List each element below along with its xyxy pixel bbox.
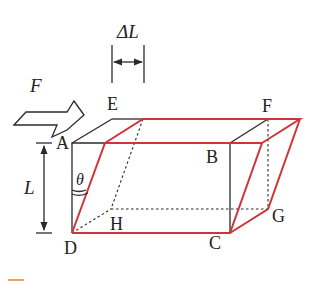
vertex-f-label: F — [262, 96, 272, 116]
delta-l-dimension — [112, 45, 144, 83]
force-arrow-icon — [14, 101, 84, 137]
vertex-c-label: C — [209, 233, 221, 253]
angle-theta-arc — [72, 190, 88, 195]
length-dimension — [36, 143, 52, 233]
vertex-b-label: B — [206, 147, 218, 167]
deformed-block — [72, 119, 300, 233]
vertex-g-label: G — [272, 206, 285, 226]
delta-l-label: ΔL — [116, 21, 139, 42]
deformed-front-face — [72, 143, 262, 233]
vertex-e-label: E — [107, 94, 118, 114]
theta-label: θ — [76, 171, 84, 188]
vertex-a-label: A — [56, 133, 69, 153]
vertex-h-label: H — [110, 214, 123, 234]
edge-deformed-back-left-hidden — [111, 119, 143, 209]
edge-ae — [72, 119, 112, 143]
original-block — [72, 119, 268, 233]
shear-diagram: F ΔL L θ A E B F D H C G — [0, 0, 320, 281]
length-label: L — [23, 177, 35, 198]
deformed-top-face — [105, 119, 300, 143]
force-label: F — [29, 75, 42, 96]
edge-dh-hidden — [72, 209, 111, 233]
vertex-d-label: D — [64, 238, 77, 258]
edge-bf — [230, 119, 268, 143]
